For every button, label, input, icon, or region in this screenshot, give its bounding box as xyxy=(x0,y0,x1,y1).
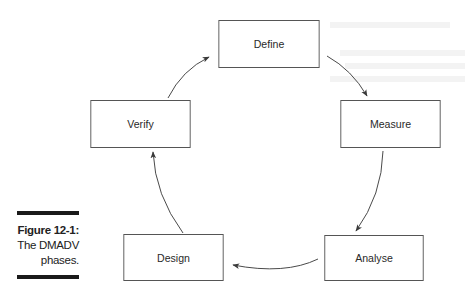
phase-box-analyse: Analyse xyxy=(324,235,423,281)
phase-label-define: Define xyxy=(254,38,285,50)
phase-label-design: Design xyxy=(157,252,190,264)
phase-label-measure: Measure xyxy=(370,118,411,130)
dmadv-diagram: Define Measure Analyse Design Verify Fig… xyxy=(0,0,473,297)
arrow-measure-to-analyse xyxy=(356,151,383,231)
phase-label-verify: Verify xyxy=(127,118,153,130)
arrow-define-to-measure xyxy=(327,56,367,96)
caption-line-1: The DMADV xyxy=(15,238,79,253)
arrow-verify-to-define xyxy=(168,57,209,98)
caption-top-rule xyxy=(17,211,79,215)
figure-caption: Figure 12-1: The DMADV phases. xyxy=(15,211,79,279)
caption-bottom-rule xyxy=(17,275,79,279)
phase-box-define: Define xyxy=(218,20,319,68)
phase-box-design: Design xyxy=(123,234,223,281)
figure-number: Figure 12-1: xyxy=(15,223,79,238)
phase-label-analyse: Analyse xyxy=(355,252,393,264)
arrow-analyse-to-design xyxy=(233,259,318,269)
caption-line-2: phases. xyxy=(15,253,79,268)
arrow-design-to-verify xyxy=(153,152,183,233)
phase-box-verify: Verify xyxy=(90,100,190,148)
phase-box-measure: Measure xyxy=(340,100,440,148)
